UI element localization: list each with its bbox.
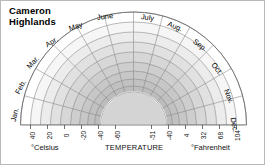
- celsius-tick-0: 0: [63, 129, 70, 143]
- celsius-tick-neg60: -60: [114, 128, 121, 144]
- fahrenheit-unit-label: °Fahrenheit: [191, 143, 230, 152]
- celsius-tick-neg20: -20: [80, 128, 87, 144]
- celsius-tick-neg40: -40: [97, 128, 104, 144]
- fahrenheit-tick-104: 104: [234, 128, 241, 144]
- celsius-tick-20: 20: [46, 129, 53, 143]
- fahrenheit-tick-32: 32: [200, 129, 207, 143]
- fahrenheit-tick-neg40: -40: [166, 128, 173, 144]
- fahrenheit-tick-4: 4: [183, 129, 190, 143]
- month-label-july: July: [140, 12, 154, 23]
- celsius-unit-label: °Celsius: [31, 143, 59, 152]
- fahrenheit-tick-68: 68: [217, 129, 224, 143]
- semicircular-temperature-chart: [1, 1, 265, 165]
- fahrenheit-tick-neg51: -51: [149, 128, 156, 144]
- climate-chart-panel: Cameron Highlands: [0, 0, 265, 165]
- celsius-tick-40: 40: [29, 129, 36, 143]
- temperature-axis-label: TEMPERATURE: [105, 143, 163, 152]
